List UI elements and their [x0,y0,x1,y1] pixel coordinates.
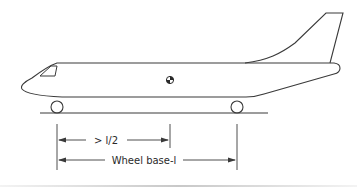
half-dim-label: > l/2 [94,135,118,146]
tail-fin [245,13,343,63]
center-of-gravity-icon [166,76,173,83]
rear-wheel [231,101,243,113]
front-wheel [51,101,63,113]
fuselage [21,63,340,97]
wheelbase-dim-label: Wheel base-l [112,155,177,166]
aircraft-diagram: > l/2 Wheel base-l [0,0,357,189]
bottom-divider [0,185,357,187]
